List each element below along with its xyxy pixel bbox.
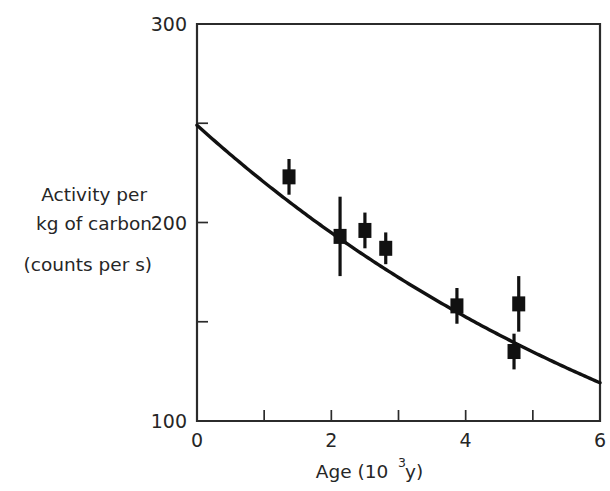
data-point-marker	[379, 241, 392, 256]
data-point-marker	[358, 223, 371, 238]
y-axis-tick-label: 100	[151, 410, 187, 432]
data-series	[283, 159, 526, 369]
chart-figure: 0246 100200300 Activity per kg of carbon…	[0, 0, 610, 491]
y-axis-title-line-2: kg of carbon	[36, 213, 152, 234]
x-axis-ticks	[264, 410, 533, 421]
data-point	[334, 197, 347, 276]
data-point	[512, 276, 525, 332]
data-point-marker	[508, 344, 521, 359]
x-axis-tick-label: 0	[191, 429, 203, 451]
data-point	[450, 288, 463, 324]
data-point-marker	[334, 229, 347, 244]
activity-vs-age-chart: 0246 100200300 Activity per kg of carbon…	[0, 0, 610, 491]
data-point-marker	[283, 169, 296, 184]
x-axis-tick-label: 2	[325, 429, 337, 451]
y-axis-tick-labels: 100200300	[151, 13, 187, 432]
plot-frame	[197, 24, 600, 421]
x-axis-tick-label: 4	[460, 429, 472, 451]
y-axis-tick-label: 200	[151, 212, 187, 234]
y-axis-title: Activity per kg of carbon (counts per s)	[24, 184, 152, 275]
x-axis-tick-labels: 0246	[191, 429, 606, 451]
data-point	[379, 232, 392, 264]
x-axis-title-base: Age (10	[316, 461, 388, 482]
data-point	[358, 213, 371, 249]
x-axis-tick-label: 6	[594, 429, 606, 451]
y-axis-ticks	[197, 123, 208, 322]
y-axis-title-line-1: Activity per	[41, 184, 147, 205]
fit-curve	[197, 125, 600, 383]
y-axis-tick-label: 300	[151, 13, 187, 35]
data-point	[283, 159, 296, 195]
y-axis-title-line-3: (counts per s)	[24, 254, 152, 275]
x-axis-title-tail: y)	[405, 461, 423, 482]
data-point-marker	[512, 296, 525, 311]
data-point-marker	[450, 298, 463, 313]
x-axis-title: Age (10 3 y)	[316, 455, 423, 482]
